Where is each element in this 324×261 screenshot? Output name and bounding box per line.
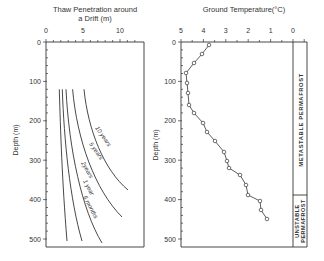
left-y-axis-label: Depth (m) xyxy=(12,124,20,155)
left-x-tick-5: 5 xyxy=(81,27,85,34)
unstable-label-line2: PERMAFROST xyxy=(300,199,306,243)
right-y-tick-200: 200 xyxy=(164,117,176,124)
ground-temperature-chart: Ground Temperature(°C) 5 4 3 2 1 0 xyxy=(152,5,307,247)
label-1-year: 1 year xyxy=(82,179,96,197)
right-x-tick-0: 0 xyxy=(291,27,295,34)
right-axes xyxy=(181,42,307,247)
right-y-tick-100: 100 xyxy=(164,78,176,85)
thaw-penetration-chart: Thaw Penetration around a Drift (m) 0 5 … xyxy=(12,5,144,247)
left-y-tick-100: 100 xyxy=(29,78,41,85)
right-chart-title: Ground Temperature(°C) xyxy=(203,5,286,14)
left-y-tick-500: 500 xyxy=(29,236,41,243)
left-y-tick-300: 300 xyxy=(29,157,41,164)
label-6-months: 6 months xyxy=(82,195,99,220)
right-x-tick-3: 3 xyxy=(224,27,228,34)
right-y-axis-label: Depth (m) xyxy=(152,129,160,160)
thaw-curves xyxy=(59,89,128,243)
left-x-tick-10: 10 xyxy=(116,27,124,34)
metastable-permafrost-label: METASTABLE PERMAFROST xyxy=(298,73,304,167)
left-x-tick-0: 0 xyxy=(44,27,48,34)
right-y-tick-400: 400 xyxy=(164,196,176,203)
left-chart-title-line2: a Drift (m) xyxy=(78,14,112,23)
right-y-tick-0: 0 xyxy=(172,39,176,46)
left-y-ticks xyxy=(43,42,48,239)
right-x-tick-5: 5 xyxy=(179,27,183,34)
right-x-tick-1: 1 xyxy=(269,27,273,34)
temperature-markers xyxy=(184,43,269,221)
temperature-profile-line xyxy=(186,45,267,219)
left-y-tick-200: 200 xyxy=(29,117,41,124)
left-y-tick-0: 0 xyxy=(37,39,41,46)
left-chart-title-line1: Thaw Penetration around xyxy=(53,5,137,14)
right-y-tick-500: 500 xyxy=(164,236,176,243)
label-5-years: 5 years xyxy=(88,141,104,161)
right-y-tick-300: 300 xyxy=(164,157,176,164)
right-x-tick-4: 4 xyxy=(201,27,205,34)
right-x-tick-2: 2 xyxy=(246,27,250,34)
right-y-ticks xyxy=(178,42,183,239)
left-y-tick-400: 400 xyxy=(29,196,41,203)
figure: Thaw Penetration around a Drift (m) 0 5 … xyxy=(0,0,324,261)
